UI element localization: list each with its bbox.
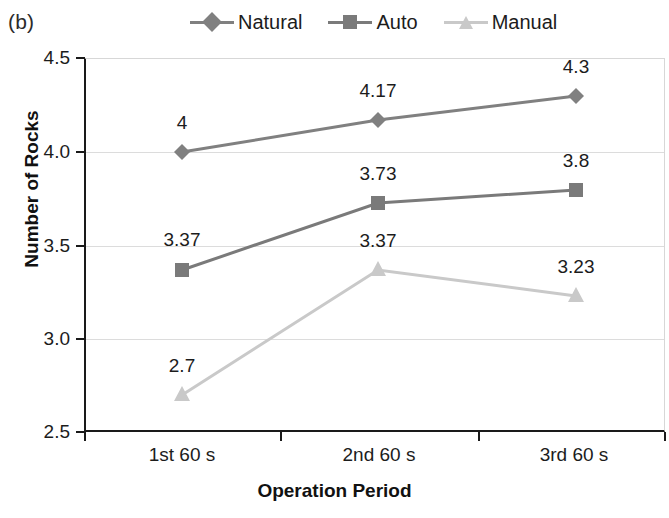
data-label-manual-1: 2.7	[137, 355, 227, 377]
data-label-manual-2: 3.37	[333, 230, 423, 252]
x-tick-mark	[664, 432, 666, 441]
data-label-auto-3: 3.8	[531, 150, 621, 172]
data-point-manual-2	[370, 261, 386, 276]
data-point-natural-3	[568, 88, 584, 104]
data-label-natural-2: 4.17	[333, 80, 423, 102]
data-point-natural-1	[174, 144, 190, 160]
x-tick-label-2: 2nd 60 s	[299, 444, 459, 466]
data-label-auto-1: 3.37	[137, 229, 227, 251]
data-point-natural-2	[370, 112, 386, 128]
data-point-manual-1	[174, 386, 190, 401]
x-axis-title: Operation Period	[0, 480, 669, 502]
x-tick-mark	[84, 432, 86, 441]
x-tick-mark	[280, 432, 282, 441]
x-tick-label-1: 1st 60 s	[102, 444, 262, 466]
data-point-auto-1	[175, 263, 189, 277]
x-tick-label-3: 3rd 60 s	[494, 444, 654, 466]
data-point-auto-2	[371, 196, 385, 210]
data-point-auto-3	[569, 183, 583, 197]
line-manual	[182, 270, 576, 395]
data-label-manual-3: 3.23	[531, 256, 621, 278]
x-tick-mark	[478, 432, 480, 441]
figure-panel-b: (b) Natural Auto Manual	[0, 0, 669, 518]
data-label-natural-3: 4.3	[531, 56, 621, 78]
data-label-natural-1: 4	[137, 112, 227, 134]
data-label-auto-2: 3.73	[333, 163, 423, 185]
